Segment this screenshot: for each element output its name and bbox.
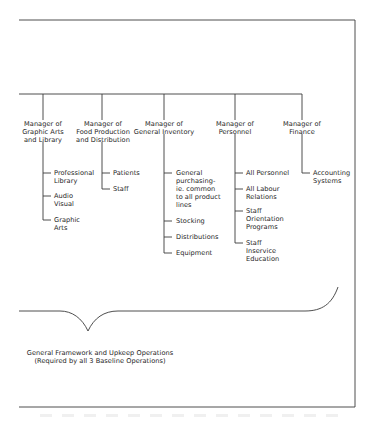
item-staff-inservice: Staff Inservice Education xyxy=(246,239,279,263)
item-staff: Staff xyxy=(113,185,129,193)
item-general-purchasing: General purchasing- ie. common to all pr… xyxy=(176,169,221,209)
item-distributions: Distributions xyxy=(176,233,219,241)
item-audio-visual: Audio Visual xyxy=(54,192,74,208)
item-graphic-arts: Graphic Arts xyxy=(54,216,80,232)
item-patients: Patients xyxy=(113,169,140,177)
item-stocking: Stocking xyxy=(176,217,205,225)
item-equipment: Equipment xyxy=(176,249,212,257)
manager-graphic-arts-label: Manager of Graphic Arts and Library xyxy=(13,120,73,144)
brace-caption-line2: (Required by all 3 Baseline Operations) xyxy=(20,357,180,365)
bleed-through-text xyxy=(40,414,340,417)
item-all-personnel: All Personnel xyxy=(246,169,289,177)
brace-caption-line1: General Framework and Upkeep Operations xyxy=(20,349,180,357)
item-accounting-systems: Accounting Systems xyxy=(313,169,350,185)
item-staff-orientation: Staff Orientation Programs xyxy=(246,207,284,231)
brace xyxy=(19,287,338,331)
manager-food-production-label: Manager of Food Production and Distribut… xyxy=(70,120,136,144)
manager-finance-label: Manager of Finance xyxy=(272,120,332,136)
manager-personnel-label: Manager of Personnel xyxy=(205,120,265,136)
item-professional-library: Professional Library xyxy=(54,169,94,185)
manager-general-inventory-label: Manager of General Inventory xyxy=(130,120,198,136)
item-all-labour-relations: All Labour Relations xyxy=(246,185,280,201)
